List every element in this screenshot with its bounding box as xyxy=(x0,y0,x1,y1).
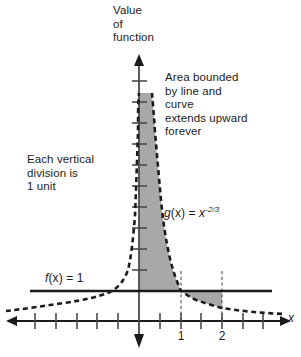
x-axis xyxy=(6,313,291,329)
area-annotation-line-4: extends upward xyxy=(165,112,248,124)
g-label-name: g xyxy=(164,206,171,220)
g-function-label: g(x) = x-2/3 xyxy=(164,203,219,221)
x-axis-arrow-left xyxy=(6,316,17,326)
division-annotation-line-3: 1 unit xyxy=(27,180,56,192)
area-annotation: Area bounded by line and curve extends u… xyxy=(165,71,248,139)
x-tick-label-1: 1 xyxy=(174,329,188,343)
f-label-arg: (x) xyxy=(48,271,62,285)
shaded-region-below-line xyxy=(181,291,222,308)
g-label-exponent: -2/3 xyxy=(205,205,219,214)
y-axis-arrow-down xyxy=(134,334,144,348)
division-annotation-line-1: Each vertical xyxy=(27,153,94,165)
g-label-equals: = xyxy=(185,206,199,220)
y-axis-arrow-up xyxy=(134,54,144,66)
f-label-equals: = xyxy=(63,271,77,285)
area-annotation-line-3: curve xyxy=(165,98,194,110)
y-axis-title: Value of function xyxy=(113,4,154,45)
function-graph-figure: Value of function Area bounded by line a… xyxy=(0,0,301,357)
y-axis-title-line-3: function xyxy=(113,31,154,43)
g-label-arg: (x) xyxy=(171,206,185,220)
x-axis-label: x xyxy=(288,312,294,326)
y-axis-title-line-1: Value xyxy=(113,4,142,16)
area-annotation-line-5: forever xyxy=(165,125,202,137)
division-annotation-line-2: division is xyxy=(27,167,78,179)
area-annotation-line-1: Area bounded xyxy=(165,71,238,83)
f-function-label: f(x) = 1 xyxy=(45,272,84,286)
y-axis-title-line-2: of xyxy=(113,18,123,30)
x-tick-label-2: 2 xyxy=(215,329,229,343)
area-annotation-line-2: by line and xyxy=(165,85,222,97)
division-annotation: Each vertical division is 1 unit xyxy=(27,153,94,194)
f-label-value: 1 xyxy=(77,271,84,285)
